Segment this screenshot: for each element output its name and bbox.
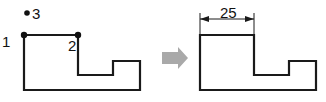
dimension-value-label: 25 xyxy=(220,5,237,20)
dimension-arrowhead-right xyxy=(245,16,254,22)
figure-svg xyxy=(0,0,326,102)
point-dot-3 xyxy=(24,10,30,16)
dimension-arrowhead-left xyxy=(200,16,209,22)
point-label-3: 3 xyxy=(32,6,40,21)
right-stepped-polygon xyxy=(200,35,316,90)
left-stepped-polygon xyxy=(24,35,140,90)
vertex-label-1: 1 xyxy=(2,34,10,49)
vertex-label-2: 2 xyxy=(68,38,76,53)
right-block-arrow-icon xyxy=(162,47,188,69)
figure-canvas: 1 2 3 25 xyxy=(0,0,326,102)
vertex-dot-1 xyxy=(21,32,27,38)
